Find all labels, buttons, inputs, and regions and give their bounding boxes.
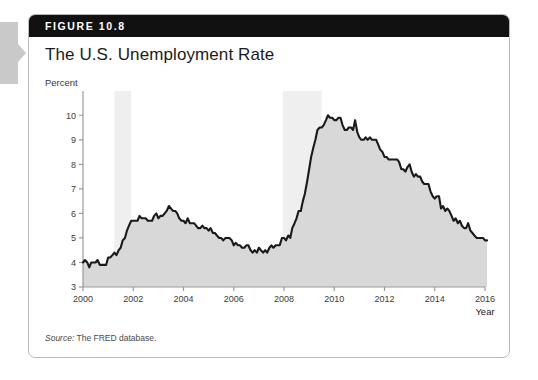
x-axis-title: Year: [475, 306, 494, 317]
y-tick-label: 6: [71, 209, 76, 219]
figure-header-bar: FIGURE 10.8: [29, 15, 509, 37]
figure-number-label: FIGURE 10.8: [45, 20, 126, 32]
x-tick-label: 2000: [73, 294, 93, 304]
y-tick-label: 9: [71, 135, 76, 145]
x-tick-label: 2012: [374, 294, 394, 304]
margin-bookmark-tab: [0, 22, 26, 84]
x-tick-label: 2002: [123, 294, 143, 304]
x-tick-label: 2016: [475, 294, 495, 304]
x-axis-title-group: Year: [475, 306, 494, 317]
y-tick-label: 10: [66, 111, 76, 121]
source-note: Source: The FRED database.: [45, 333, 156, 343]
figure-card: FIGURE 10.8 The U.S. Unemployment Rate P…: [28, 14, 510, 358]
source-text: The FRED database.: [77, 333, 157, 343]
page-title: The U.S. Unemployment Rate: [45, 45, 274, 65]
source-prefix: Source:: [45, 333, 74, 343]
margin-bookmark-shape: [0, 22, 26, 84]
x-tick-label: 2014: [425, 294, 445, 304]
y-tick-label: 4: [71, 258, 76, 268]
y-axis-unit-label: Percent: [45, 77, 78, 88]
unemployment-line-chart: 345678910 200020022004200620082010201220…: [39, 89, 501, 321]
x-tick-labels-group: 200020022004200620082010201220142016: [73, 294, 495, 304]
x-tick-label: 2010: [324, 294, 344, 304]
x-tick-label: 2004: [173, 294, 193, 304]
y-tick-label: 7: [71, 184, 76, 194]
y-tick-labels-group: 345678910: [66, 111, 76, 293]
y-tick-label: 5: [71, 233, 76, 243]
x-tick-label: 2006: [224, 294, 244, 304]
y-tick-label: 3: [71, 282, 76, 292]
x-tick-label: 2008: [274, 294, 294, 304]
y-tick-label: 8: [71, 160, 76, 170]
chart-plot-area: 345678910 200020022004200620082010201220…: [39, 89, 501, 321]
